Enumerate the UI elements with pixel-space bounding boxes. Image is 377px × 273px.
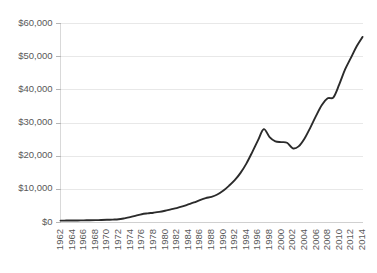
x-tick-label: 1984	[182, 229, 193, 250]
x-tick-label: 1978	[147, 229, 158, 250]
series-line	[61, 37, 363, 221]
x-tick-label: 1962	[54, 229, 65, 250]
gridlines-group	[61, 24, 363, 223]
x-tick-labels-group: 1962196419661968197019721974197619781980…	[54, 229, 367, 250]
x-tick-label: 2006	[310, 229, 321, 250]
x-tick-label: 1990	[217, 229, 228, 250]
x-tick-label: 1986	[193, 229, 204, 250]
x-tick-label: 2008	[321, 229, 332, 250]
x-tick-label: 1988	[205, 229, 216, 250]
y-tick-label: $60,000	[18, 17, 52, 28]
x-tick-label: 1998	[263, 229, 274, 250]
x-tick-label: 1994	[240, 229, 251, 250]
line-chart: $60,000$50,000$40,000$30,000$20,000$10,0…	[0, 0, 377, 273]
x-tick-label: 2002	[286, 229, 297, 250]
x-tick-label: 1972	[112, 229, 123, 250]
y-tick-label: $10,000	[18, 182, 52, 193]
x-tick-label: 1992	[228, 229, 239, 250]
y-tick-label: $40,000	[18, 83, 52, 94]
x-tick-label: 2010	[333, 229, 344, 250]
x-tick-label: 2004	[298, 229, 309, 250]
chart-canvas: $60,000$50,000$40,000$30,000$20,000$10,0…	[0, 0, 377, 273]
y-tick-label: $20,000	[18, 149, 52, 160]
x-tick-label: 1996	[251, 229, 262, 250]
x-tick-label: 1970	[100, 229, 111, 250]
y-tick-labels-group: $60,000$50,000$40,000$30,000$20,000$10,0…	[18, 17, 60, 227]
x-tick-label: 1964	[66, 229, 77, 250]
x-tick-label: 1974	[124, 229, 135, 250]
x-tick-label: 1976	[135, 229, 146, 250]
axis-lines-group	[61, 23, 363, 223]
x-tick-label: 1982	[170, 229, 181, 250]
x-tick-label: 2000	[275, 229, 286, 250]
x-tick-label: 1968	[89, 229, 100, 250]
x-tick-label: 2014	[356, 229, 367, 250]
y-tick-label: $30,000	[18, 116, 52, 127]
y-tick-label: $50,000	[18, 50, 52, 61]
x-tick-label: 2012	[344, 229, 355, 250]
data-series-group	[61, 37, 363, 221]
x-tick-label: 1966	[77, 229, 88, 250]
x-tick-label: 1980	[159, 229, 170, 250]
y-tick-label: $0	[42, 216, 53, 227]
